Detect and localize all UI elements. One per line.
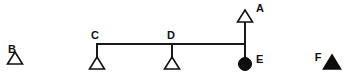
node-a-label: A <box>256 2 264 14</box>
node-e-circle[interactable] <box>239 58 252 71</box>
kinship-diagram-svg: B C D A E F <box>0 0 347 83</box>
node-f-label: F <box>315 51 322 63</box>
node-b-label: B <box>8 43 16 55</box>
node-a-triangle[interactable] <box>238 10 253 22</box>
node-d-triangle[interactable] <box>165 57 180 69</box>
node-c-triangle[interactable] <box>90 57 105 69</box>
kinship-diagram-canvas: B C D A E F <box>0 0 347 83</box>
node-c-label: C <box>91 29 99 41</box>
node-e-label: E <box>256 53 263 65</box>
node-d-label: D <box>167 29 175 41</box>
node-f-triangle[interactable] <box>324 55 341 69</box>
